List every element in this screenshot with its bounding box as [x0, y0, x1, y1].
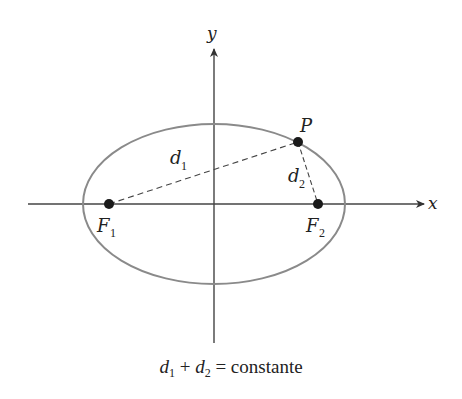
x-axis-label: x: [428, 193, 438, 213]
segment-d2: [298, 142, 318, 204]
equation-caption: d1 + d2 = constante: [0, 356, 462, 381]
caption-d2: d: [195, 356, 205, 377]
focus-f1-label: F 1: [96, 215, 116, 240]
caption-d2-subscript: 2: [205, 366, 211, 380]
point-p-label: P: [299, 115, 313, 136]
y-axis-label: y: [206, 23, 217, 43]
svg-text:1: 1: [110, 226, 116, 240]
svg-text:1: 1: [181, 159, 187, 173]
focus-f1-point: [104, 199, 114, 209]
svg-text:d: d: [170, 147, 182, 168]
segment-d2-label: d 2: [288, 165, 305, 191]
caption-equals-constant: = constante: [215, 356, 302, 377]
focus-f2-label: F 2: [305, 215, 325, 240]
svg-text:F: F: [96, 215, 111, 236]
caption-d1-subscript: 1: [169, 366, 175, 380]
svg-text:F: F: [305, 215, 320, 236]
svg-text:d: d: [288, 165, 300, 186]
segment-d1-label: d 1: [170, 147, 187, 173]
segment-d1: [109, 142, 298, 204]
point-p: [293, 137, 303, 147]
ellipse-diagram: x y P F 1 F 2 d 1 d 2 d1: [0, 0, 462, 399]
caption-d1: d: [159, 356, 169, 377]
caption-plus: +: [180, 356, 191, 377]
svg-text:2: 2: [299, 177, 305, 191]
focus-f2-point: [313, 199, 323, 209]
svg-text:2: 2: [319, 226, 325, 240]
